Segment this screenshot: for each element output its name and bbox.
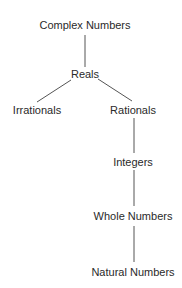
node-rationals: Rationals (110, 105, 156, 116)
edge-reals-irrationals (37, 80, 71, 102)
node-whole-numbers: Whole Numbers (94, 211, 173, 222)
node-reals: Reals (71, 69, 99, 80)
diagram-edges (0, 0, 182, 288)
node-complex-numbers: Complex Numbers (39, 20, 130, 31)
number-hierarchy-diagram: Complex Numbers Reals Irrationals Ration… (0, 0, 182, 288)
edge-reals-rationals (98, 79, 132, 101)
node-natural-numbers: Natural Numbers (91, 267, 174, 278)
node-irrationals: Irrationals (13, 105, 61, 116)
node-integers: Integers (113, 157, 153, 168)
